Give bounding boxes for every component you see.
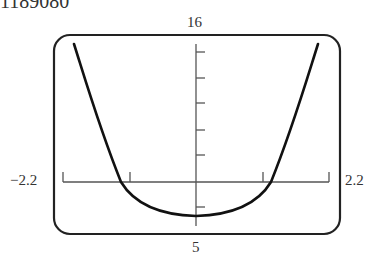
ymax-label: 16 — [187, 14, 202, 31]
xmin-label: −2.2 — [10, 172, 37, 189]
window-frame — [54, 35, 340, 234]
xmax-label: 2.2 — [345, 172, 364, 189]
y-axis — [196, 44, 205, 226]
ymin-label: 5 — [192, 239, 200, 256]
